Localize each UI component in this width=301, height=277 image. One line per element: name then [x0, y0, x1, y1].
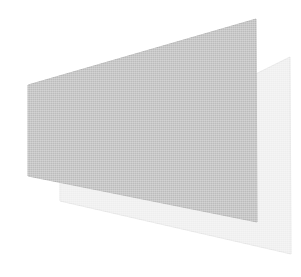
figure-canvas: Abstract geometric figure Two overlappin… — [0, 0, 301, 277]
geometric-figure-svg — [0, 0, 301, 277]
